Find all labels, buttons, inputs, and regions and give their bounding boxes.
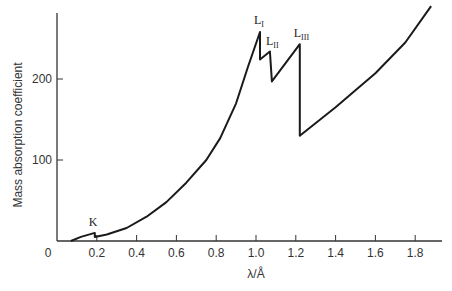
x-tick-label: 0.8	[208, 246, 225, 260]
ticks: 00.20.40.60.81.01.21.41.61.8100200	[32, 72, 424, 260]
x-tick-label: 0	[45, 246, 52, 260]
absorption-curve	[71, 6, 431, 241]
l3-edge-label: LIII	[294, 26, 310, 42]
edge-annotations: KLILIILIII	[89, 13, 310, 230]
y-tick-label: 200	[32, 72, 52, 86]
l2-edge-label: LII	[266, 34, 279, 50]
l1-edge-label: LI	[254, 13, 264, 29]
y-axis-title: Mass absorption coefficient	[11, 62, 25, 208]
x-tick-label: 1.2	[287, 246, 304, 260]
x-tick-label: 1.8	[407, 246, 424, 260]
y-tick-label: 100	[32, 153, 52, 167]
x-tick-label: 1.6	[367, 246, 384, 260]
x-tick-label: 0.6	[168, 246, 185, 260]
axes	[57, 13, 442, 241]
x-tick-label: 0.2	[88, 246, 105, 260]
x-tick-label: 1.4	[327, 246, 344, 260]
k-edge-label: K	[89, 215, 98, 229]
absorption-chart: 00.20.40.60.81.01.21.41.61.8100200 KLILI…	[0, 0, 452, 291]
x-tick-label: 1.0	[248, 246, 265, 260]
x-axis-title: λ/Å	[247, 266, 264, 281]
x-tick-label: 0.4	[128, 246, 145, 260]
